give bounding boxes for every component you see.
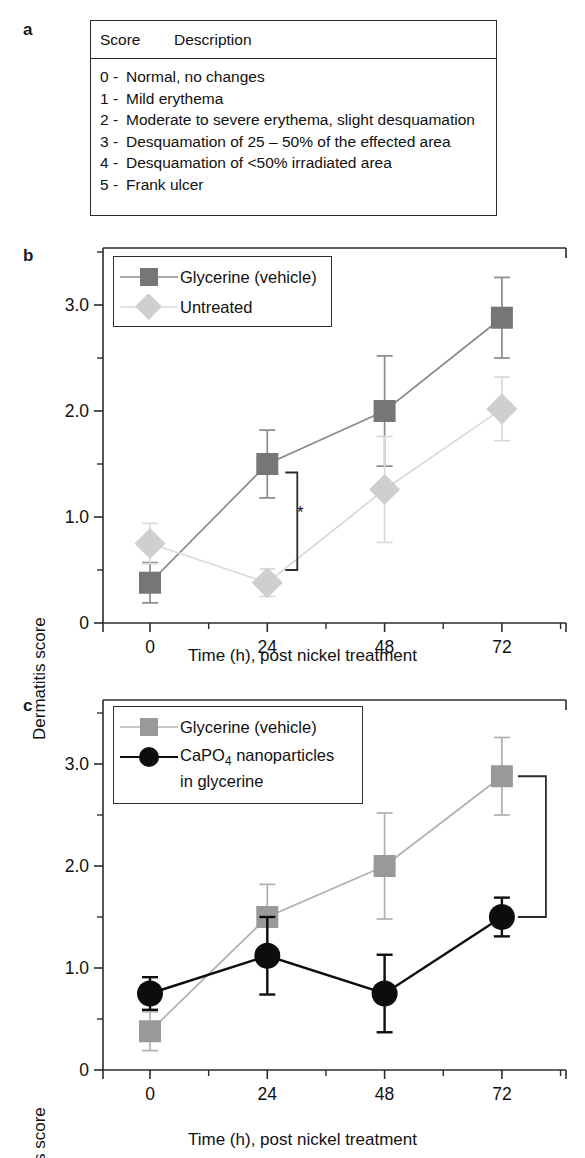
score-value: 4	[100, 152, 113, 174]
legend-label-nanoparticles: nanoparticles	[232, 746, 335, 764]
table-row: 1 - Mild erythema	[100, 88, 496, 110]
significance-bracket-c	[518, 776, 546, 917]
x-axis-label-b: Time (h), post nickel treatment	[188, 646, 417, 666]
y-axis-label-c: Dermatitis score	[30, 1107, 50, 1158]
score-dash: -	[113, 66, 126, 88]
svg-text:24: 24	[258, 1084, 278, 1104]
svg-text:0: 0	[79, 613, 89, 633]
legend-label-line2: in glycerine	[118, 768, 362, 794]
legend-item[interactable]: Glycerine (vehicle)	[118, 712, 362, 742]
legend-panel-b: Glycerine (vehicle) Untreated	[113, 256, 332, 327]
table-row: 5 - Frank ulcer	[100, 174, 496, 196]
panel-c-chart: 01.02.03.00244872 Glycerine (vehicle) Ca…	[0, 690, 585, 1158]
score-description: Mild erythema	[126, 88, 223, 110]
score-description: Desquamation of <50% irradiated area	[126, 152, 392, 174]
svg-text:0: 0	[145, 1084, 155, 1104]
table-row: 2 - Moderate to severe erythema, slight …	[100, 109, 496, 131]
legend-marker-diamond-icon	[118, 294, 180, 320]
svg-text:3.0: 3.0	[65, 754, 90, 774]
score-description: Moderate to severe erythema, slight desq…	[126, 109, 475, 131]
table-body: 0 - Normal, no changes 1 - Mild erythema…	[91, 59, 496, 195]
table-row: 4 - Desquamation of <50% irradiated area	[100, 152, 496, 174]
score-description: Desquamation of 25 – 50% of the effected…	[126, 131, 451, 153]
score-dash: -	[113, 174, 126, 196]
legend-label: Glycerine (vehicle)	[180, 718, 317, 737]
legend-label: CaPO4 nanoparticles	[180, 746, 334, 768]
score-dash: -	[113, 152, 126, 174]
legend-label-capo: CaPO	[180, 746, 225, 764]
panel-b-chart: 01.02.03.00244872 Glycerine (vehicle) Un…	[0, 240, 585, 670]
svg-text:0: 0	[145, 637, 155, 657]
column-header-description: Description	[174, 31, 252, 49]
legend-item[interactable]: Glycerine (vehicle)	[118, 262, 331, 292]
table-header-row: Score Description	[91, 21, 496, 59]
column-header-score: Score	[100, 31, 174, 49]
x-axis-label-c: Time (h), post nickel treatment	[188, 1130, 417, 1150]
score-value: 5	[100, 174, 113, 196]
svg-text:2.0: 2.0	[65, 856, 90, 876]
score-value: 3	[100, 131, 113, 153]
svg-text:0: 0	[79, 1060, 89, 1080]
legend-label-subscript: 4	[225, 754, 232, 768]
score-description: Frank ulcer	[126, 174, 204, 196]
legend-label: Untreated	[180, 298, 252, 317]
score-dash: -	[113, 131, 126, 153]
panel-letter-a: a	[23, 20, 32, 40]
svg-text:1.0: 1.0	[65, 507, 90, 527]
legend-panel-c: Glycerine (vehicle) CaPO4 nanoparticles …	[113, 706, 363, 804]
svg-text:3.0: 3.0	[65, 295, 90, 315]
table-row: 0 - Normal, no changes	[100, 66, 496, 88]
legend-marker-circle-icon	[118, 744, 180, 770]
score-dash: -	[113, 109, 126, 131]
score-dash: -	[113, 88, 126, 110]
score-description-table: Score Description 0 - Normal, no changes…	[90, 20, 497, 216]
significance-bracket-b	[285, 472, 297, 570]
score-description: Normal, no changes	[126, 66, 265, 88]
svg-text:72: 72	[492, 637, 511, 657]
legend-label: Glycerine (vehicle)	[180, 268, 317, 287]
significance-star-b: *	[297, 504, 304, 521]
score-value: 2	[100, 109, 113, 131]
svg-text:48: 48	[375, 1084, 394, 1104]
score-value: 1	[100, 88, 113, 110]
svg-text:1.0: 1.0	[65, 958, 90, 978]
legend-marker-square-icon	[118, 714, 180, 740]
table-row: 3 - Desquamation of 25 – 50% of the effe…	[100, 131, 496, 153]
score-value: 0	[100, 66, 113, 88]
svg-text:2.0: 2.0	[65, 401, 90, 421]
legend-item[interactable]: Untreated	[118, 292, 331, 322]
legend-marker-square-icon	[118, 264, 180, 290]
svg-text:72: 72	[492, 1084, 511, 1104]
